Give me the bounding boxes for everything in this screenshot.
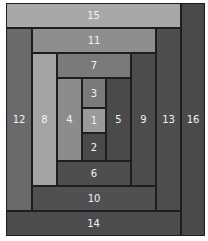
block-label: 8 — [41, 114, 47, 125]
block-label: 6 — [91, 168, 97, 179]
block-label: 7 — [91, 60, 97, 71]
block-12: 12 — [6, 28, 32, 211]
block-13: 13 — [156, 28, 181, 211]
block-5: 5 — [106, 78, 131, 161]
block-9: 9 — [131, 53, 156, 186]
block-8: 8 — [32, 53, 57, 186]
block-label: 16 — [187, 114, 200, 125]
block-diagram: 15161214111381079463125 — [0, 0, 208, 241]
block-label: 2 — [91, 142, 97, 153]
block-2: 2 — [82, 133, 106, 161]
block-label: 14 — [87, 218, 100, 229]
block-7: 7 — [57, 53, 131, 78]
block-label: 3 — [91, 88, 97, 99]
block-6: 6 — [57, 161, 131, 186]
block-label: 1 — [91, 115, 97, 126]
block-3: 3 — [82, 78, 106, 108]
block-label: 9 — [140, 114, 146, 125]
block-15: 15 — [6, 3, 181, 28]
block-label: 10 — [88, 193, 101, 204]
block-11: 11 — [32, 28, 156, 53]
block-label: 11 — [88, 35, 101, 46]
block-label: 12 — [13, 114, 26, 125]
block-14: 14 — [6, 211, 181, 236]
block-label: 15 — [87, 10, 100, 21]
block-label: 4 — [66, 114, 72, 125]
block-4: 4 — [57, 78, 82, 161]
block-16: 16 — [181, 3, 205, 236]
block-10: 10 — [32, 186, 156, 211]
block-label: 5 — [115, 114, 121, 125]
block-1: 1 — [82, 108, 106, 133]
block-label: 13 — [162, 114, 175, 125]
